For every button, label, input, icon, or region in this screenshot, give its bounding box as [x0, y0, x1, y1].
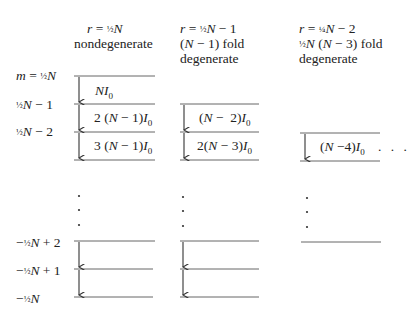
transition-intensity: 2(N − 3)I0 [197, 138, 252, 159]
transition-intensity: (N − 2)I0 [199, 110, 251, 131]
m-label: ½N − 1 [16, 97, 53, 113]
column-3-header-r: r = ¼N − 2 [299, 21, 356, 37]
column-3-header-degeneracy: ½N (N − 3) fold [299, 36, 382, 52]
column-1-header-degeneracy: nondegenerate [74, 36, 153, 51]
m-label: −½N + 1 [16, 263, 61, 279]
m-label: −½N + 2 [16, 235, 61, 251]
m-label: ½N − 2 [16, 124, 53, 140]
m-label: −½N [16, 291, 39, 307]
transition-intensity: NI0 [95, 83, 113, 104]
transition-intensity: (N −4)I0 [320, 139, 365, 160]
vertical-ellipsis [78, 195, 308, 228]
horizontal-ellipsis: . . . [378, 139, 410, 154]
column-1-header-r: r = ½N [87, 21, 122, 37]
column-2-header-degeneracy: (N − 1) fold [180, 36, 244, 51]
column-2-header-degenerate: degenerate [180, 51, 238, 66]
transition-intensity: 2 (N − 1)I0 [94, 110, 152, 131]
column-2-header-r: r = ½N − 1 [180, 21, 237, 37]
m-label: m = ½N [16, 68, 56, 84]
transition-intensity: 3 (N − 1)I0 [94, 138, 152, 159]
column-3-header-degenerate: degenerate [299, 51, 357, 66]
